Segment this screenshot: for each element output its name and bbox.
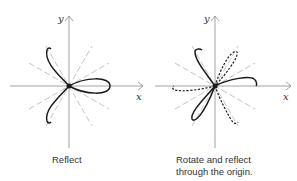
- caption-rotate-reflect-line2: through the origin.: [176, 166, 253, 178]
- panel-reflect: x y: [10, 13, 143, 148]
- y-axis-label: y: [57, 13, 64, 24]
- panel-rotate-reflect: x y: [155, 13, 291, 148]
- x-axis-label: x: [283, 91, 289, 102]
- origin-point: [213, 84, 218, 89]
- dashed-petal-lower-right: [215, 86, 238, 123]
- caption-rotate-reflect-line1: Rotate and reflect: [176, 154, 251, 166]
- petal-right: [215, 78, 257, 86]
- caption-reflect: Reflect: [52, 154, 82, 166]
- petal-lower-left: [192, 86, 215, 120]
- origin-point: [67, 84, 72, 89]
- diagram-canvas: x y x y: [0, 0, 297, 181]
- x-axis-label: x: [136, 91, 142, 102]
- y-axis-label: y: [203, 13, 210, 24]
